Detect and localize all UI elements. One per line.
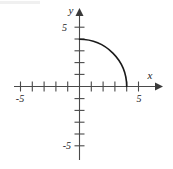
graph-figure: x y -5 5 5 -5: [0, 0, 173, 169]
quarter-circle-curve: [80, 39, 127, 86]
x-axis-label: x: [147, 69, 153, 81]
x-axis-arrow-icon: [155, 83, 163, 91]
y-axis-label: y: [68, 4, 74, 16]
x-tick-label-neg-five: -5: [16, 93, 24, 104]
y-tick-label-neg-five: -5: [63, 140, 71, 151]
x-tick-label-pos-five: 5: [137, 93, 142, 104]
y-axis-arrow-icon: [76, 8, 84, 16]
coordinate-plane: x y -5 5 5 -5: [0, 0, 173, 169]
y-tick-label-pos-five: 5: [62, 22, 67, 33]
